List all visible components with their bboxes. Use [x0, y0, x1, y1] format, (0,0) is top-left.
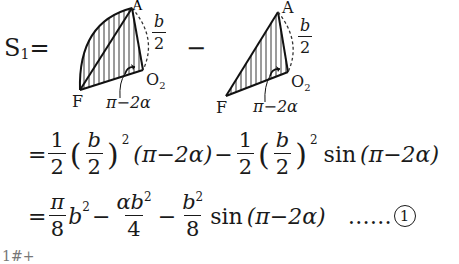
line2-pi-num: π	[48, 192, 66, 215]
line1-b-num: b	[86, 130, 103, 153]
line2-minus-1: −	[92, 204, 110, 229]
line1-b-over-2: b2	[86, 130, 103, 178]
fig2-o: O	[291, 72, 304, 91]
fig1-label-f: F	[72, 92, 83, 111]
line2-ab-square: 2	[144, 190, 152, 204]
line2-equals: =	[28, 204, 46, 229]
line1-equals: =	[28, 142, 46, 167]
line2-sin-arg: (π−2α)	[247, 204, 326, 229]
line1-square: 2	[122, 133, 130, 147]
fig1-radius-num: b	[152, 14, 166, 32]
line2-dots: ……	[348, 204, 392, 229]
line1-half: 12	[48, 130, 65, 178]
fig1-o: O	[146, 70, 159, 89]
fig2-label-f: F	[216, 98, 227, 117]
line2-pi-over-8: π8	[48, 192, 66, 240]
line2-b2-over-8: b28	[180, 192, 205, 240]
line2-b2-square: 2	[196, 190, 204, 204]
line1-b-over-2-second: b2	[274, 130, 291, 178]
line1-b2-num: b	[274, 130, 291, 153]
line1-angle-term: (π−2α)	[133, 142, 212, 167]
line2-b2-num: b2	[180, 192, 205, 215]
paren-close: )	[107, 137, 119, 172]
line2-b2-text: b	[182, 190, 195, 214]
line1-b-den: 2	[86, 153, 103, 178]
fig1-radius-label: b 2	[152, 14, 166, 52]
line2-sin: sin	[210, 204, 243, 229]
partial-footer-text: 1#+	[2, 248, 34, 264]
equation-line-1: = 12 ( b2 )2 (π−2α) − 12 ( b2 )2 sin (π−…	[28, 130, 439, 178]
line2-b-square: 2	[82, 200, 90, 214]
equation-number-circle: 1	[394, 205, 416, 227]
fig2-o-sub: 2	[304, 82, 310, 93]
line1-square-2: 2	[310, 133, 318, 147]
figure-minus: −	[186, 34, 206, 62]
fig2-radius-label: b 2	[298, 18, 312, 56]
lhs-s1: S1=	[4, 34, 49, 62]
paren-close-2: )	[295, 137, 307, 172]
fig2-angle-label: π−2α	[253, 97, 298, 116]
line2-ab-over-4: αb24	[114, 192, 153, 240]
fig2-radius-num: b	[298, 18, 312, 36]
line1-half2-num: 1	[237, 130, 254, 153]
fig1-o-sub: 2	[159, 80, 165, 91]
line2-b2-den: 8	[184, 215, 201, 240]
fig1-angle-label: π−2α	[106, 93, 151, 112]
line1-half-num: 1	[48, 130, 65, 153]
line1-sin-arg: (π−2α)	[360, 142, 439, 167]
paren-open: (	[70, 137, 82, 172]
fig1-radius-den: 2	[152, 32, 166, 52]
line1-half-den: 2	[48, 153, 65, 178]
paren-open-2: (	[258, 137, 270, 172]
line2-ab-den: 4	[125, 215, 142, 240]
line1-half-2: 12	[237, 130, 254, 178]
line1-half2-den: 2	[237, 153, 254, 178]
line1-sin: sin	[324, 142, 357, 167]
line2-pi-den: 8	[49, 215, 66, 240]
fig2-label-o2: O2	[291, 72, 311, 93]
line1-minus: −	[214, 142, 232, 167]
fig2-label-a: A	[282, 0, 294, 17]
lhs-equals: =	[29, 34, 49, 62]
lhs-symbol: S	[4, 34, 20, 62]
fig2-radius-den: 2	[298, 36, 312, 56]
line2-minus-2: −	[158, 204, 176, 229]
line1-b2-den: 2	[274, 153, 291, 178]
fig1-label-o2: O2	[146, 70, 166, 91]
equation-line-2: = π8 b2 − αb24 − b28 sin (π−2α) …… 1	[28, 192, 416, 240]
line2-b: b	[68, 204, 82, 229]
line2-ab-num: αb2	[114, 192, 153, 215]
fig1-label-a: A	[132, 0, 143, 13]
line2-ab-text: αb	[116, 190, 144, 214]
